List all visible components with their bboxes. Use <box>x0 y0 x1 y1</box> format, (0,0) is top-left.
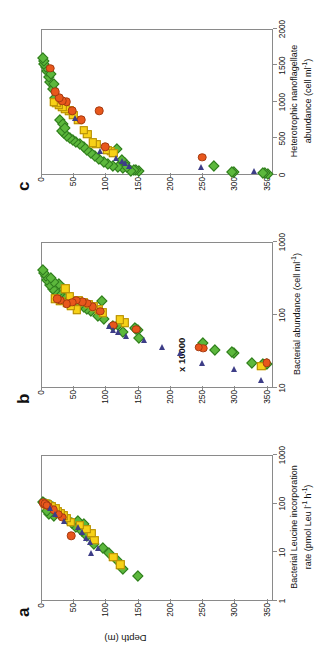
x-tick-label: 1000 <box>277 93 287 111</box>
x-tick-label: 10 <box>277 548 287 557</box>
data-point-orange-circle <box>67 531 76 540</box>
data-point-orange-circle <box>77 115 86 124</box>
y-tick-mark <box>267 386 268 390</box>
data-point-navy-triangle <box>106 323 112 329</box>
x-tick-label: 10 <box>277 383 287 392</box>
y-tick-label: 100 <box>100 177 110 205</box>
x-tick-mark <box>273 600 277 601</box>
y-tick-label: 0 <box>36 177 46 205</box>
y-tick-mark <box>105 599 106 603</box>
data-point-yellow-square <box>116 560 124 568</box>
data-point-navy-triangle <box>199 360 205 366</box>
x-axis-title-a-line1: Bacterial Leucine incorporation <box>289 465 299 589</box>
x-tick-label: 500 <box>277 132 287 146</box>
plot-area-c <box>41 29 273 175</box>
y-tick-label: 150 <box>133 177 143 205</box>
y-tick-mark <box>170 173 171 177</box>
x-tick-label: 100 <box>277 308 287 322</box>
panel-letter-b: b <box>14 394 34 404</box>
data-point-navy-triangle <box>88 550 94 556</box>
y-tick-label: 300 <box>229 390 239 418</box>
y-tick-label: 150 <box>133 603 143 631</box>
data-point-orange-circle <box>46 64 55 73</box>
panel-a: a Depth (m) 050100150200250300350 110100… <box>0 431 324 647</box>
x-axis-title-c: Heterotrophic nanoflagellate abundance (… <box>289 27 313 175</box>
y-tick-mark <box>202 386 203 390</box>
data-point-orange-circle <box>68 106 77 115</box>
y-tick-label: 350 <box>262 177 272 205</box>
data-point-navy-triangle <box>61 518 67 524</box>
data-point-orange-circle <box>95 106 104 115</box>
x-axis-title-b: Bacterial abundance (cell ml-1) <box>289 240 303 388</box>
data-point-orange-circle <box>53 295 62 304</box>
x-tick-label: 2000 <box>277 20 287 38</box>
x-tick-label: 0 <box>277 173 287 178</box>
y-tick-label: 200 <box>165 603 175 631</box>
y-tick-mark <box>41 386 42 390</box>
y-tick-label: 50 <box>68 390 78 418</box>
x-tick-mark <box>273 551 277 552</box>
data-point-navy-triangle <box>119 158 125 164</box>
y-tick-mark <box>73 386 74 390</box>
data-point-navy-triangle <box>75 524 81 530</box>
data-point-navy-triangle <box>123 333 129 339</box>
data-point-navy-triangle <box>113 155 119 161</box>
x-axis-title-c-line2: abundance (cell ml-1) <box>303 59 313 143</box>
data-point-navy-triangle <box>95 545 101 551</box>
x-tick-label: 1000 <box>277 233 287 251</box>
y-tick-label: 150 <box>133 390 143 418</box>
data-point-navy-triangle <box>141 337 147 343</box>
y-tick-mark <box>105 173 106 177</box>
y-tick-label: 250 <box>197 177 207 205</box>
x-tick-mark <box>273 503 277 504</box>
panel-letter-c: c <box>14 182 34 191</box>
data-point-navy-triangle <box>159 344 165 350</box>
data-point-navy-triangle <box>258 377 264 383</box>
y-tick-label: 50 <box>68 177 78 205</box>
y-tick-mark <box>234 386 235 390</box>
x-tick-label: 100 <box>277 497 287 511</box>
panel-c: c Depth (m) 050100150200250300350 050010… <box>0 0 324 221</box>
y-tick-mark <box>170 599 171 603</box>
y-tick-label: 0 <box>36 603 46 631</box>
x-tick-label: 1 <box>277 599 287 604</box>
data-point-navy-triangle <box>231 366 237 372</box>
x-tick-mark <box>273 387 277 388</box>
x-tick-mark <box>273 314 277 315</box>
data-point-navy-triangle <box>52 511 58 517</box>
y-tick-mark <box>138 386 139 390</box>
y-tick-mark <box>41 599 42 603</box>
y-tick-mark <box>105 386 106 390</box>
data-point-navy-triangle <box>47 505 53 511</box>
y-tick-label: 300 <box>229 603 239 631</box>
data-point-navy-triangle <box>97 148 103 154</box>
x-tick-mark <box>273 454 277 455</box>
panel-letter-a: a <box>14 608 34 617</box>
y-tick-label: 250 <box>197 390 207 418</box>
y-tick-mark <box>202 599 203 603</box>
y-tick-label: 300 <box>229 177 239 205</box>
x-tick-label: 1000 <box>277 446 287 464</box>
data-point-orange-circle <box>51 87 60 96</box>
x-tick-mark <box>273 101 277 102</box>
y-tick-label: 100 <box>100 390 110 418</box>
x-tick-label: 1500 <box>277 56 287 74</box>
x-tick-mark <box>273 138 277 139</box>
x-axis-title-b-line1: Bacterial abundance (cell ml-1) <box>292 253 302 375</box>
data-point-navy-triangle <box>251 168 257 174</box>
data-point-navy-triangle <box>198 164 204 170</box>
x-axis-title-a-line2: rate (pmol Leu l-1 h-1) <box>303 485 313 570</box>
y-tick-mark <box>170 386 171 390</box>
y-tick-label: 100 <box>100 603 110 631</box>
data-point-orange-circle <box>96 307 105 316</box>
x-axis-title-a: Bacterial Leucine incorporation rate (pm… <box>289 453 313 601</box>
panel-b: b Depth (m) 050100150200250300350 101001… <box>0 218 324 434</box>
y-tick-label: 200 <box>165 177 175 205</box>
data-point-navy-triangle <box>115 329 121 335</box>
y-tick-mark <box>202 173 203 177</box>
data-point-yellow-square <box>109 553 117 561</box>
y-tick-label: 250 <box>197 603 207 631</box>
x-axis-title-c-line1: Heterotrophic nanoflagellate <box>289 45 299 158</box>
y-tick-label: 350 <box>262 390 272 418</box>
y-tick-mark <box>267 599 268 603</box>
